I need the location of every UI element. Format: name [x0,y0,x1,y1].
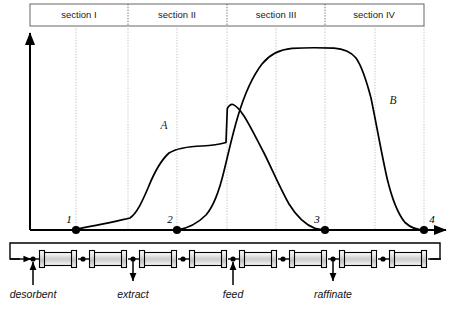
bed-1[interactable] [40,251,77,268]
plot-axes [30,33,446,230]
node-label-1: 1 [66,213,72,225]
junction-dot-8 [380,256,385,261]
section-label-2: section II [158,9,196,20]
junction-dot-feed [230,256,235,261]
node-dot-2 [173,226,181,234]
port-labels: desorbent extract feed raffinate [10,288,352,300]
port-label-extract: extract [117,288,150,300]
section-label-1: section I [61,9,96,20]
bed-7[interactable] [340,251,377,268]
junction-dot-6 [280,256,285,261]
node-label-4: 4 [429,213,435,225]
node-label-2: 2 [167,213,173,225]
junction-dot-2 [80,256,85,261]
bed-3[interactable] [140,251,177,268]
port-label-feed: feed [223,288,245,300]
curve-a [76,104,332,230]
diagram-canvas: section I section II section III section… [0,0,451,309]
node-label-3: 3 [313,213,320,225]
port-label-desorbent: desorbent [10,288,58,300]
section-label-4: section IV [353,9,395,20]
junction-dot-4 [180,256,185,261]
bed-6[interactable] [290,251,327,268]
smb-diagram: section I section II section III section… [0,0,451,309]
node-dot-4 [420,226,428,234]
bed-8[interactable] [390,251,427,268]
node-dot-1 [72,226,80,234]
section-header-band: section I section II section III section… [30,4,424,26]
curve-b [177,48,424,230]
bed-4[interactable] [190,251,227,268]
port-label-raffinate: raffinate [314,288,352,300]
section-label-3: section III [256,9,297,20]
junction-dot-desorbent [30,256,35,261]
bed-2[interactable] [90,251,127,268]
curve-label-a: A [159,119,168,131]
node-dot-3 [321,226,329,234]
curve-label-b: B [389,94,396,106]
port-arrows [33,258,333,285]
bed-5[interactable] [240,251,277,268]
